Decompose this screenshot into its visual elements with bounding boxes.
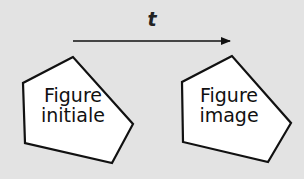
- initial-figure-line2: initiale: [28, 106, 118, 126]
- translation-diagram: t Figure initiale Figure image: [0, 0, 304, 179]
- image-figure-label: Figure image: [184, 86, 274, 126]
- image-figure-line1: Figure: [184, 86, 274, 106]
- initial-figure-label: Figure initiale: [28, 86, 118, 126]
- vector-label: t: [140, 10, 164, 30]
- image-figure-line2: image: [184, 106, 274, 126]
- initial-figure-line1: Figure: [28, 86, 118, 106]
